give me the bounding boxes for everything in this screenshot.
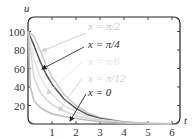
y-tick-label: 40: [14, 81, 26, 93]
x-tick-label: 6: [169, 126, 175, 138]
y-tick-label: 60: [14, 63, 26, 75]
annotation-label: x = π/4: [87, 38, 120, 50]
x-tick-label: 4: [121, 126, 127, 138]
y-axis-label: u: [24, 2, 30, 14]
plot-frame: [28, 17, 180, 124]
x-tick-label: 3: [97, 126, 103, 138]
x-tick-label: 5: [145, 126, 151, 138]
x-tick-label: 1: [49, 126, 55, 138]
line-chart: 20406080100 123456 x = π/2x = π/4x = π/6…: [0, 0, 193, 139]
y-tick-label: 100: [9, 26, 26, 38]
annotation-label: x = π/6: [87, 55, 120, 67]
annotation-label: x = π/12: [87, 72, 126, 84]
y-tick-label: 20: [14, 100, 26, 112]
chart: 20406080100 123456 x = π/2x = π/4x = π/6…: [0, 0, 193, 139]
y-tick-label: 80: [14, 44, 26, 56]
annotation-label: x = 0: [87, 86, 112, 98]
x-axis-label: t: [184, 114, 188, 126]
annotation-label: x = π/2: [87, 20, 120, 32]
x-tick-label: 2: [73, 126, 79, 138]
